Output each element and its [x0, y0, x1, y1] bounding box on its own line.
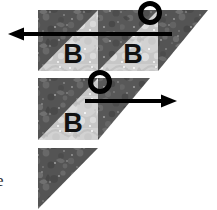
block-label-b-1: B	[63, 39, 83, 69]
row-1-setting-triangle	[158, 10, 208, 71]
block-label-b-3: B	[63, 108, 83, 138]
figure-canvas: B B B	[0, 0, 217, 210]
row-1: B B	[38, 10, 208, 71]
block-label-b-2: B	[123, 39, 143, 69]
row-3-setting-triangle	[38, 148, 98, 209]
quilt-diagram: B B B	[0, 0, 217, 210]
corner-caption: e	[0, 172, 4, 189]
row-3	[38, 148, 98, 209]
